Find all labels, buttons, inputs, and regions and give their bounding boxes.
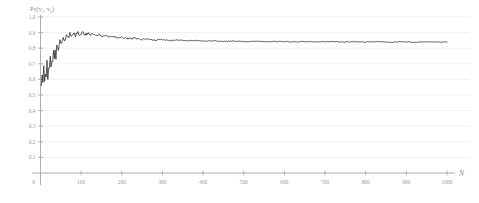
chart-figure: 1.00.90.80.70.60.50.40.30.20.1 100200300… bbox=[0, 0, 479, 203]
y-tick-label: 0.2 bbox=[29, 139, 36, 145]
y-tick-label: 0.7 bbox=[29, 61, 36, 67]
y-tick-label: 0.8 bbox=[29, 45, 36, 51]
gridlines-group bbox=[41, 17, 471, 157]
x-tick-labels-group: 1002003004005006007008009001000 bbox=[77, 179, 453, 185]
y-axis-label: Pr(vi, vj) bbox=[30, 5, 55, 14]
x-tick-label: 400 bbox=[199, 179, 207, 185]
x-tick-label: 700 bbox=[321, 179, 329, 185]
y-tick-label: 0.1 bbox=[29, 154, 36, 160]
x-axis-label: N bbox=[458, 169, 465, 178]
y-tick-labels-group: 1.00.90.80.70.60.50.40.30.20.1 bbox=[29, 14, 36, 160]
x-tick-label: 600 bbox=[280, 179, 288, 185]
x-tick-label: 1000 bbox=[442, 179, 453, 185]
y-tick-label: 0.4 bbox=[29, 108, 36, 114]
data-series-line bbox=[41, 31, 447, 85]
x-tick-label: 200 bbox=[118, 179, 126, 185]
y-tick-label: 0.3 bbox=[29, 123, 36, 129]
y-tick-label: 0.5 bbox=[29, 92, 36, 98]
x-tick-label: 500 bbox=[240, 179, 248, 185]
line-chart-plot: 1.00.90.80.70.60.50.40.30.20.1 100200300… bbox=[0, 0, 479, 203]
x-tick-label: 800 bbox=[362, 179, 370, 185]
y-tick-label: 0.6 bbox=[29, 76, 36, 82]
origin-label: 0 bbox=[32, 179, 35, 185]
x-tick-label: 900 bbox=[402, 179, 410, 185]
y-tick-label: 0.9 bbox=[29, 30, 36, 36]
x-tick-label: 100 bbox=[77, 179, 85, 185]
y-tick-label: 1.0 bbox=[29, 14, 36, 20]
x-tick-label: 300 bbox=[158, 179, 166, 185]
